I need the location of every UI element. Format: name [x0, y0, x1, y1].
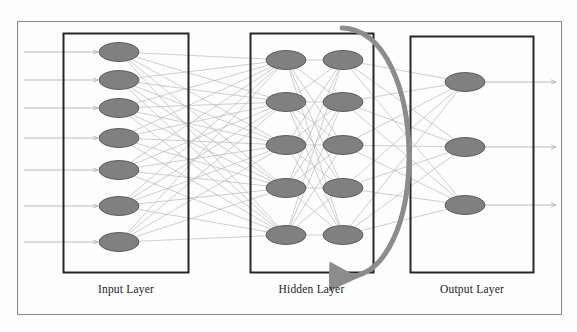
connection-line	[353, 110, 455, 196]
connection-line	[138, 62, 266, 77]
neuron-input	[99, 129, 139, 148]
connection-line	[139, 172, 267, 186]
neuron-hidden	[323, 93, 363, 112]
connection-line	[131, 88, 274, 181]
neuron-input	[99, 43, 139, 62]
connection-line	[139, 53, 266, 59]
neuron-hidden	[323, 51, 363, 70]
layer-label-hidden: Hidden Layer	[250, 283, 373, 295]
neuron-hidden	[266, 179, 306, 198]
neuron-input	[99, 233, 139, 252]
connection-line	[127, 69, 278, 234]
neuron-hidden	[266, 93, 306, 112]
neuron-input	[99, 71, 139, 90]
neuron-hidden	[323, 226, 363, 245]
layer-label-input: Input Layer	[63, 283, 189, 295]
neuron-input	[99, 99, 139, 118]
neuron-hidden	[266, 226, 306, 245]
neuron-hidden	[323, 179, 363, 198]
layer-label-output: Output Layer	[410, 283, 534, 295]
neuron-input	[99, 161, 139, 180]
neuron-hidden	[266, 136, 306, 155]
neuron-output	[445, 73, 485, 92]
connection-line	[136, 143, 269, 183]
neuron-output	[445, 138, 485, 157]
connection-line	[131, 110, 274, 199]
connection-line	[136, 193, 270, 236]
connection-line	[139, 236, 266, 241]
neuron-hidden	[266, 51, 306, 70]
connection-line	[363, 145, 445, 146]
neuron-input	[99, 197, 139, 216]
neuron-output	[445, 196, 485, 215]
diagram-canvas: Input Layer Hidden Layer Output Layer	[0, 0, 577, 332]
neuron-hidden	[323, 136, 363, 155]
